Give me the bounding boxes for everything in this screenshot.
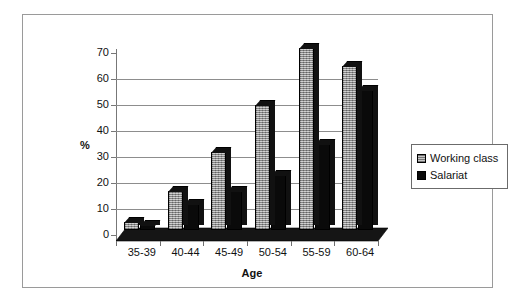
x-tick-label-35-39: 35-39 xyxy=(119,246,165,259)
x-tick-label-50-54: 50-54 xyxy=(250,246,296,259)
bar-50-54-working-class[interactable] xyxy=(255,105,270,230)
y-tick-mark-40 xyxy=(111,131,116,132)
x-axis-title: Age xyxy=(116,267,388,279)
bar-group-35-39 xyxy=(124,53,160,235)
bar-body xyxy=(299,48,314,230)
x-tick-label-60-64: 60-64 xyxy=(337,246,383,259)
y-tick-mark-60 xyxy=(111,79,116,80)
plot-area xyxy=(116,53,378,235)
y-tick-mark-70 xyxy=(111,53,116,54)
chart-figure: 010203040506070 % 35-3940-4445-4950-5455… xyxy=(0,0,515,301)
legend-swatch-salariat-icon xyxy=(417,171,426,180)
legend-label-salariat: Salariat xyxy=(430,170,467,181)
bar-group-60-64 xyxy=(342,53,378,235)
bar-side-3d xyxy=(357,61,362,225)
y-tick-label-40: 40 xyxy=(83,125,109,136)
x-tick-mark-1 xyxy=(160,241,161,246)
y-tick-mark-0 xyxy=(111,235,116,236)
legend-item-working-class[interactable]: Working class xyxy=(417,150,503,167)
x-tick-label-55-59: 55-59 xyxy=(294,246,340,259)
bar-side-3d xyxy=(183,186,188,225)
x-tick-mark-6 xyxy=(378,241,379,246)
x-tick-label-45-49: 45-49 xyxy=(206,246,252,259)
legend-item-salariat[interactable]: Salariat xyxy=(417,167,503,184)
x-tick-mark-2 xyxy=(203,241,204,246)
bar-side-3d xyxy=(314,43,319,225)
x-tick-mark-5 xyxy=(334,241,335,246)
x-tick-mark-3 xyxy=(247,241,248,246)
y-axis-title: % xyxy=(80,139,90,151)
bar-side-3d xyxy=(270,100,275,225)
bar-body xyxy=(124,222,139,230)
bar-side-3d xyxy=(373,85,378,225)
bar-group-50-54 xyxy=(255,53,291,235)
bar-40-44-working-class[interactable] xyxy=(168,191,183,230)
y-tick-mark-50 xyxy=(111,105,116,106)
bar-55-59-working-class[interactable] xyxy=(299,48,314,230)
bar-side-3d xyxy=(286,170,291,225)
x-tick-mark-4 xyxy=(291,241,292,246)
bar-side-3d xyxy=(226,147,231,225)
bar-35-39-working-class[interactable] xyxy=(124,222,139,230)
bar-group-55-59 xyxy=(299,53,335,235)
y-tick-label-10: 10 xyxy=(83,203,109,214)
y-axis-tick-labels: 010203040506070 xyxy=(77,15,109,301)
y-tick-label-70: 70 xyxy=(83,47,109,58)
y-tick-label-30: 30 xyxy=(83,151,109,162)
chart-border: 010203040506070 % 35-3940-4445-4950-5455… xyxy=(22,14,493,288)
legend-swatch-working-class-icon xyxy=(417,154,426,163)
x-tick-mark-0 xyxy=(116,241,117,246)
y-tick-mark-10 xyxy=(111,209,116,210)
chart-legend: Working class Salariat xyxy=(411,144,508,189)
y-tick-mark-30 xyxy=(111,157,116,158)
bar-side-3d xyxy=(330,139,335,225)
bar-45-49-working-class[interactable] xyxy=(211,152,226,230)
bar-body xyxy=(211,152,226,230)
y-tick-label-0: 0 xyxy=(83,229,109,240)
y-tick-label-50: 50 xyxy=(83,99,109,110)
y-tick-label-60: 60 xyxy=(83,73,109,84)
bar-body xyxy=(342,66,357,230)
legend-label-working-class: Working class xyxy=(430,153,498,164)
y-tick-mark-20 xyxy=(111,183,116,184)
bar-60-64-working-class[interactable] xyxy=(342,66,357,230)
bar-35-39-salariat[interactable] xyxy=(140,225,155,230)
y-tick-label-20: 20 xyxy=(83,177,109,188)
bar-group-45-49 xyxy=(211,53,247,235)
bar-body xyxy=(255,105,270,230)
x-tick-label-40-44: 40-44 xyxy=(163,246,209,259)
bar-body xyxy=(168,191,183,230)
bar-group-40-44 xyxy=(168,53,204,235)
bar-side-3d xyxy=(242,186,247,225)
x-axis-tick-labels: 35-3940-4445-4950-5455-5960-64 xyxy=(116,246,396,262)
